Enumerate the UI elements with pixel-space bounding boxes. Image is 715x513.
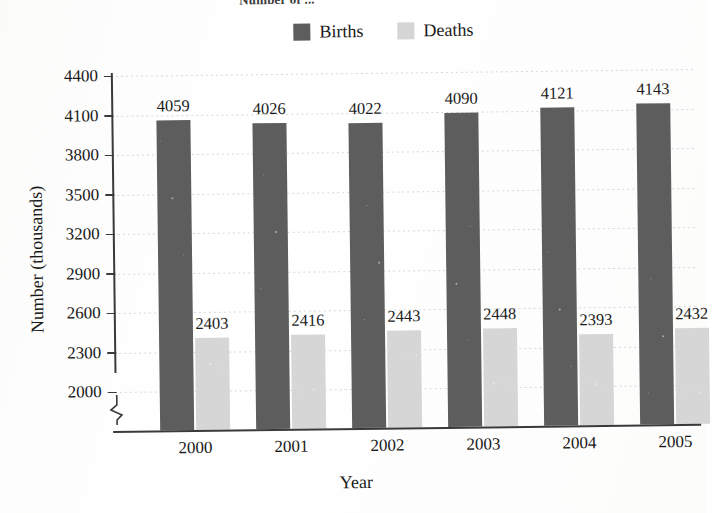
x-axis-tick-label: 2000 [150,438,240,456]
bar-births-2002 [348,122,386,428]
legend-label-births: Births [319,22,363,41]
bar-births-2000 [156,120,194,430]
y-axis-tick [105,155,114,157]
y-axis-tick [104,76,113,78]
axis-break-icon [109,395,125,425]
bar-deaths-2005 [675,328,710,424]
bar-deaths-2002 [387,330,422,428]
x-axis-title: Year [3,468,710,498]
y-axis-tick-labels: 440041003800350032002900260023002000 [39,3,103,513]
y-axis-tick-label: 3200 [46,225,100,243]
legend-item-births: Births [293,22,363,41]
bar-chart-figure: Number of ... Births Deaths 405924034026… [0,0,710,513]
legend-item-deaths: Deaths [397,21,473,40]
bar-deaths-2000 [195,338,230,430]
y-axis-title: Number (thousands) [25,114,50,404]
y-axis-tick [105,194,114,196]
bar-value-label: 4121 [534,85,580,102]
y-axis-tick-label: 4400 [44,67,98,85]
gridline [113,266,697,274]
bar-value-label: 2416 [285,313,331,330]
legend-swatch-deaths-icon [397,22,414,39]
gridline [111,108,695,116]
bar-births-2003 [444,112,482,427]
y-axis-tick [107,352,116,354]
x-axis-tick-label: 2005 [630,433,715,451]
bar-value-label: 4143 [630,81,676,98]
x-axis-tick-label: 2002 [342,436,432,454]
clipped-chart-title: Number of ... [147,0,407,8]
x-axis-tick-label: 2003 [438,435,528,453]
bar-value-label: 2432 [669,306,715,323]
legend-label-deaths: Deaths [423,21,473,40]
bar-deaths-2001 [291,335,326,429]
bar-deaths-2004 [579,334,614,425]
x-axis-tick-label: 2001 [246,437,336,455]
bar-value-label: 4022 [342,100,388,117]
y-axis-tick [108,391,117,393]
bar-value-label: 4090 [438,90,484,107]
y-axis-tick [106,233,115,235]
x-axis-tick-label: 2004 [534,434,624,452]
y-axis-tick-label: 3500 [45,186,99,204]
gridline [113,227,697,235]
y-axis-tick-label: 2000 [48,383,102,401]
y-axis-tick-label: 2900 [46,265,100,283]
bar-births-2005 [636,103,674,425]
y-axis-tick [106,273,115,275]
gridline [111,69,695,77]
y-axis-tick [104,115,113,117]
bar-births-2004 [540,107,578,426]
bar-births-2001 [252,123,290,429]
chart-legend: Births Deaths [293,21,473,41]
y-axis-tick-label: 3800 [45,146,99,164]
bar-value-label: 2393 [573,312,619,329]
plot-area: 4059240340262416402224434090244841212393… [111,68,699,431]
legend-swatch-births-icon [293,23,310,40]
y-axis-tick [107,312,116,314]
bar-value-label: 4059 [150,98,196,115]
gridline [112,148,696,156]
bar-value-label: 2403 [189,315,235,332]
y-axis-tick-label: 4100 [44,107,98,125]
y-axis-tick-label: 2600 [47,304,101,322]
bar-value-label: 4026 [246,101,292,118]
bar-value-label: 2448 [477,306,523,323]
y-axis-tick-label: 2300 [47,344,101,362]
bar-deaths-2003 [483,328,518,426]
gridline [112,187,696,195]
bar-value-label: 2443 [381,308,427,325]
